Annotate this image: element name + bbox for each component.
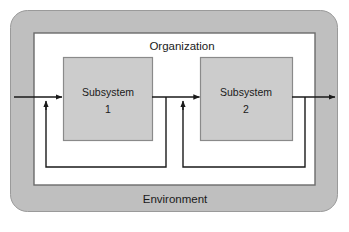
organization-label: Organization — [149, 40, 214, 52]
subsystem-2-label-line1: Subsystem — [220, 86, 272, 98]
subsystem-1-box — [64, 58, 153, 141]
subsystem-2-label-line2: 2 — [243, 103, 249, 115]
subsystem-1-label-line2: 1 — [105, 103, 111, 115]
subsystem-2-box — [201, 58, 293, 141]
subsystem-1-label-line1: Subsystem — [82, 86, 134, 98]
environment-label: Environment — [143, 193, 208, 205]
organization-environment-diagram: Organization Environment Subsystem 1 Sub… — [0, 0, 349, 232]
systems-diagram-container: Organization Environment Subsystem 1 Sub… — [0, 0, 349, 232]
